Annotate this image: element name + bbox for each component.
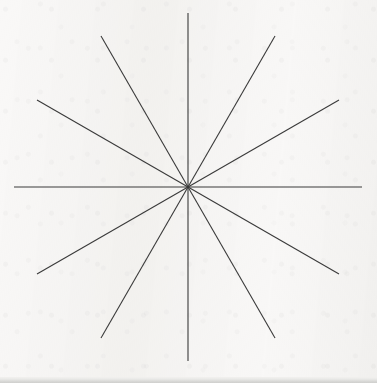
star-line-group (14, 13, 362, 361)
page-bottom-edge-band (0, 377, 377, 383)
star-figure-container (0, 0, 377, 383)
star-diagram (0, 0, 377, 383)
